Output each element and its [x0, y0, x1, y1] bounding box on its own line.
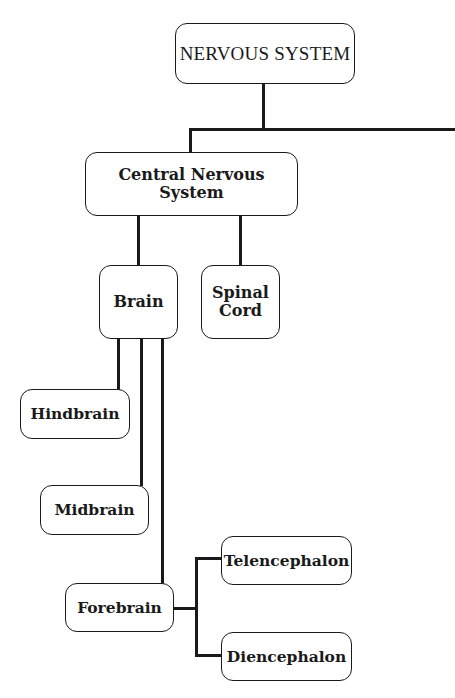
- node-label: Telencephalon: [224, 552, 350, 569]
- node-central-nervous-system: Central Nervous System: [85, 152, 298, 216]
- node-spinal-cord: Spinal Cord: [201, 265, 280, 339]
- node-label: Midbrain: [54, 501, 134, 518]
- connector-cns-brain: [137, 215, 140, 266]
- connector-root-horizontal: [189, 128, 455, 131]
- node-diencephalon: Diencephalon: [221, 632, 352, 681]
- node-label-line2: Cord: [219, 302, 262, 320]
- node-forebrain: Forebrain: [65, 583, 174, 632]
- node-brain: Brain: [99, 265, 178, 339]
- connector-brain-midbrain: [140, 338, 143, 486]
- connector-to-diencephalon: [195, 654, 222, 657]
- node-label: Hindbrain: [31, 405, 120, 422]
- connector-to-telencephalon: [195, 557, 222, 560]
- node-label-line1: Spinal: [212, 284, 269, 302]
- node-midbrain: Midbrain: [40, 485, 149, 535]
- connector-root-down: [262, 83, 265, 130]
- connector-brain-hindbrain: [117, 338, 120, 390]
- node-label: Central Nervous System: [86, 166, 297, 202]
- node-nervous-system: NERVOUS SYSTEM: [175, 23, 355, 84]
- connector-forebrain-vertical: [195, 557, 198, 657]
- node-hindbrain: Hindbrain: [20, 389, 130, 439]
- connector-forebrain-right: [172, 607, 197, 610]
- node-label: Diencephalon: [227, 648, 346, 665]
- node-label: Brain: [113, 293, 163, 311]
- connector-cns-spinal-cord: [239, 215, 242, 266]
- connector-brain-forebrain: [161, 338, 164, 584]
- node-label: Forebrain: [77, 599, 162, 616]
- node-label: NERVOUS SYSTEM: [180, 43, 351, 64]
- connector-to-cns: [189, 128, 192, 153]
- node-telencephalon: Telencephalon: [221, 536, 352, 585]
